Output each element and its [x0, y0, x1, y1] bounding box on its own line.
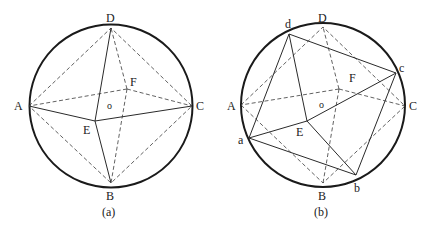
dashed-line-FB-b: [323, 89, 339, 183]
label-b: b: [354, 181, 360, 195]
label-B: B: [106, 189, 114, 203]
label-B-b: B: [318, 189, 326, 203]
solid-line-Ed: [289, 34, 307, 121]
dashed-line-FC-b: [339, 89, 405, 106]
label-c: c: [399, 61, 404, 75]
diagram-canvas: D B A C F E o (a) D B A C F E o d c b a: [0, 0, 428, 237]
dashed-line-FD: [111, 28, 127, 89]
solid-line-EA: [29, 106, 95, 121]
label-A: A: [14, 99, 23, 113]
label-D: D: [106, 11, 115, 25]
label-F: F: [130, 75, 137, 89]
label-o: o: [107, 100, 112, 111]
label-D-b: D: [318, 11, 327, 25]
figure-a: D B A C F E o (a): [14, 11, 204, 219]
label-C: C: [196, 99, 204, 113]
label-F-b: F: [349, 71, 356, 85]
solid-line-EB: [95, 121, 111, 183]
label-C-b: C: [409, 99, 417, 113]
label-A-b: A: [227, 99, 236, 113]
figure-b: D B A C F E o d c b a (b): [227, 11, 417, 219]
caption-b: (b): [314, 205, 328, 219]
label-o-b: o: [319, 99, 324, 110]
label-E-b: E: [296, 125, 303, 139]
dashed-line-FD-b: [323, 27, 339, 89]
caption-a: (a): [102, 205, 115, 219]
label-d: d: [285, 17, 291, 31]
label-a: a: [238, 133, 244, 147]
dashed-line-FC: [127, 89, 192, 106]
label-E: E: [83, 123, 90, 137]
dashed-line-FB: [111, 89, 127, 183]
